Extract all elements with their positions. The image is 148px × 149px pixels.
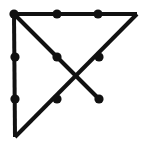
graph-vertex-left-edge-upper xyxy=(10,52,19,61)
graph-edge-left-edge xyxy=(14,14,15,137)
graph-vertex-diag-anti-lower xyxy=(52,94,61,103)
graph-vertex-top-edge-mid-left xyxy=(52,9,61,18)
graph-diagram xyxy=(0,0,148,149)
graph-vertex-diag-main-upper xyxy=(52,52,61,61)
figure-canvas xyxy=(0,0,148,149)
graph-vertex-diag-anti-upper xyxy=(94,52,103,61)
graph-vertex-top-edge-mid-right xyxy=(93,9,102,18)
graph-vertex-branch-endpoint xyxy=(94,94,103,103)
graph-vertex-corner-top-left xyxy=(9,9,18,18)
edge-layer xyxy=(14,14,137,137)
graph-vertex-left-edge-lower xyxy=(10,94,19,103)
